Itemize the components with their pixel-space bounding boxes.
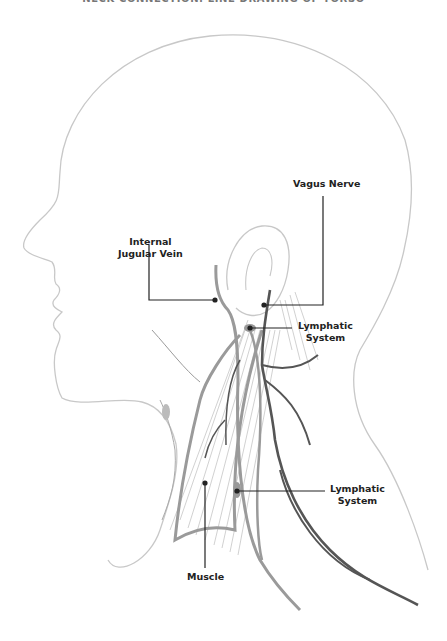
- leader-vagus-nerve: [264, 196, 323, 305]
- label-internal-jugular-vein: Internal Jugular Vein: [118, 236, 183, 260]
- head-neck-illustration: [0, 0, 447, 641]
- sternocleidomastoid-muscle: [175, 330, 262, 540]
- label-vagus-nerve: Vagus Nerve: [293, 178, 360, 190]
- muscle-fibers: [170, 292, 318, 555]
- face-profile: [24, 172, 177, 567]
- internal-jugular-vein: [216, 265, 300, 610]
- label-lymphatic-system-lower: Lymphatic System: [330, 483, 385, 507]
- label-lymphatic-system-upper: Lymphatic System: [298, 320, 353, 344]
- ear: [227, 226, 289, 316]
- label-muscle: Muscle: [187, 571, 224, 583]
